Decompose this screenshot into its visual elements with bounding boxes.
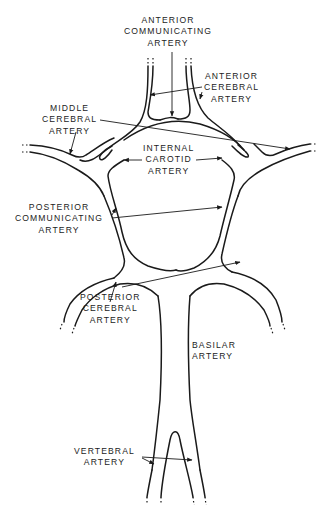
label-vertebral-artery: VERTEBRAL ARTERY (74, 446, 135, 469)
label-line: MIDDLE (42, 103, 97, 114)
label-line: ARTERY (192, 351, 236, 362)
label-line: ARTERY (80, 315, 141, 326)
label-anterior-cerebral-artery: ANTERIOR CEREBRAL ARTERY (204, 71, 259, 105)
middle-cerebral-artery-left (22, 138, 114, 196)
label-line: COMMUNICATING (15, 213, 103, 224)
anterior-communicating-artery (160, 118, 178, 120)
label-line: VERTEBRAL (74, 446, 135, 457)
label-line: ARTERY (204, 94, 259, 105)
label-line: ARTERY (15, 225, 103, 236)
label-line: CAROTID (143, 154, 194, 165)
circle-of-willis-diagram (0, 0, 327, 513)
label-line: POSTERIOR (15, 202, 103, 213)
leader-lines (70, 52, 290, 464)
label-line: ANTERIOR (204, 71, 259, 82)
label-middle-cerebral-artery: MIDDLE CEREBRAL ARTERY (42, 103, 97, 137)
label-line: ARTERY (42, 126, 97, 137)
posterior-cerebral-artery-right (190, 272, 285, 334)
label-line: ARTERY (143, 166, 194, 177)
basilar-artery (152, 296, 200, 470)
label-line: CEREBRAL (42, 114, 97, 125)
posterior-communicating-artery-left (104, 160, 176, 278)
middle-cerebral-artery-right (232, 144, 318, 196)
label-posterior-cerebral-artery: POSTERIOR CEREBRAL ARTERY (80, 292, 141, 326)
label-posterior-communicating-artery: POSTERIOR COMMUNICATING ARTERY (15, 202, 103, 236)
label-line: INTERNAL (143, 143, 194, 154)
label-line: ANTERIOR (124, 15, 212, 26)
label-line: CEREBRAL (80, 303, 141, 314)
label-line: COMMUNICATING (124, 26, 212, 37)
label-internal-carotid-artery: INTERNAL CAROTID ARTERY (143, 143, 194, 177)
label-basilar-artery: BASILAR ARTERY (192, 340, 236, 363)
label-line: ARTERY (124, 38, 212, 49)
label-line: POSTERIOR (80, 292, 141, 303)
label-line: CEREBRAL (204, 82, 259, 93)
label-line: BASILAR (192, 340, 236, 351)
label-line: ARTERY (74, 457, 135, 468)
label-anterior-communicating-artery: ANTERIOR COMMUNICATING ARTERY (124, 15, 212, 49)
